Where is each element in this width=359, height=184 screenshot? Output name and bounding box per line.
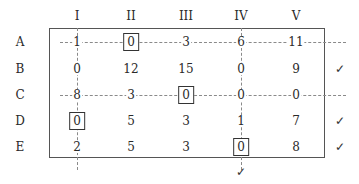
row-label: D [15, 114, 25, 128]
table-cell: 8 [72, 89, 82, 101]
row-label: C [15, 88, 24, 102]
assigned-zero-cell: 0 [233, 138, 249, 156]
table-cell: 3 [126, 89, 136, 101]
table-cell: 5 [126, 141, 136, 153]
table-cell: 5 [126, 115, 136, 127]
table-cell: 1 [72, 36, 82, 48]
table-cell: 0 [72, 63, 82, 75]
row-check-icon: ✓ [335, 140, 345, 154]
column-header: III [179, 9, 193, 23]
assigned-zero-cell: 0 [178, 86, 194, 104]
column-check-icon: ✓ [236, 165, 246, 179]
assigned-zero-cell: 0 [69, 112, 85, 130]
table-cell: 7 [291, 115, 301, 127]
column-header: V [292, 9, 301, 23]
table-cell: 12 [122, 63, 139, 75]
table-cell: 2 [72, 141, 82, 153]
table-cell: 11 [287, 36, 304, 48]
table-cell: 0 [236, 63, 246, 75]
column-header: I [75, 9, 80, 23]
table-cell: 9 [291, 63, 301, 75]
table-cell: 6 [236, 36, 246, 48]
row-label: A [16, 35, 25, 49]
row-label: E [16, 140, 25, 154]
row-check-icon: ✓ [335, 62, 345, 76]
table-cell: 3 [181, 115, 191, 127]
row-label: B [16, 62, 25, 76]
table-cell: 8 [291, 141, 301, 153]
table-cell: 15 [177, 63, 194, 75]
column-header: IV [234, 9, 247, 23]
table-cell: 3 [181, 36, 191, 48]
column-header: II [126, 9, 135, 23]
table-cell: 0 [291, 89, 301, 101]
table-cell: 1 [236, 115, 246, 127]
cover-line-row-c [60, 95, 346, 96]
table-cell: 0 [236, 89, 246, 101]
table-cell: 3 [181, 141, 191, 153]
row-check-icon: ✓ [335, 114, 345, 128]
assigned-zero-cell: 0 [123, 33, 139, 51]
